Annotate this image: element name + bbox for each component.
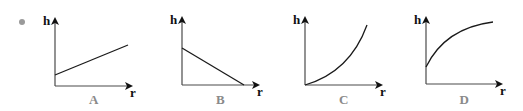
option-label: A — [89, 92, 99, 107]
x-axis-label: r — [500, 83, 506, 98]
graph-option-a: hrA — [43, 13, 136, 107]
h-vs-r-curve — [426, 22, 493, 67]
graph-option-d: hrD — [414, 12, 506, 107]
h-vs-r-curve — [305, 25, 367, 85]
y-axis-label: h — [293, 12, 301, 27]
y-axis-label: h — [170, 12, 178, 27]
y-axis-label: h — [43, 13, 51, 28]
option-label: B — [216, 92, 225, 107]
h-vs-r-curve — [182, 48, 244, 85]
x-axis-label: r — [257, 84, 263, 99]
y-axis-label: h — [414, 12, 422, 27]
option-label: D — [460, 92, 469, 107]
graph-option-b: hrB — [170, 12, 263, 107]
graph-option-c: hrC — [293, 12, 386, 107]
h-vs-r-curve — [55, 45, 128, 75]
x-axis-label: r — [130, 85, 136, 100]
option-label: C — [339, 92, 348, 107]
x-axis-label: r — [380, 84, 386, 99]
graph-options: hrAhrBhrChrD — [0, 0, 523, 111]
